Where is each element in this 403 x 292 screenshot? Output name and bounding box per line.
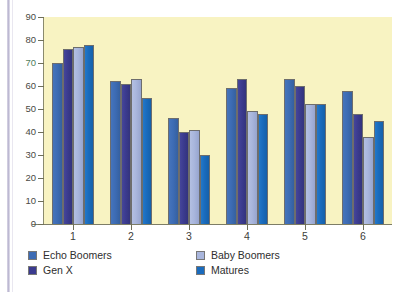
y-axis-tick-label: 10	[0, 196, 36, 206]
y-axis-tick-label: 90	[0, 12, 36, 22]
x-axis-line	[32, 224, 392, 225]
legend-item: Echo Boomers	[28, 250, 112, 261]
bar	[226, 88, 237, 224]
bar	[52, 63, 63, 224]
bar	[110, 81, 121, 224]
y-axis-tick-label: 50	[0, 104, 36, 114]
bar	[342, 91, 353, 224]
legend-swatch-icon	[28, 266, 37, 275]
bar	[84, 45, 95, 224]
bar	[295, 86, 306, 224]
bar	[258, 114, 269, 224]
legend-item: Baby Boomers	[196, 250, 280, 261]
legend-item: Gen X	[28, 265, 73, 276]
x-axis-tick-label: 2	[116, 231, 146, 242]
legend-item: Matures	[196, 265, 249, 276]
x-axis-tick-label: 5	[290, 231, 320, 242]
legend-swatch-icon	[196, 251, 205, 260]
legend-label: Echo Boomers	[43, 250, 112, 261]
bars-layer	[44, 17, 392, 224]
y-axis-tick-label: 80	[0, 35, 36, 45]
bar	[237, 79, 248, 224]
x-axis-tick-label: 6	[348, 231, 378, 242]
bar	[121, 84, 132, 224]
bar	[179, 132, 190, 224]
bar	[316, 104, 327, 224]
bar	[189, 130, 200, 224]
chart-figure: 0102030405060708090 123456 Echo BoomersG…	[0, 0, 403, 292]
x-axis-tick-label: 4	[232, 231, 262, 242]
y-axis-tick	[38, 224, 44, 225]
y-axis-tick-label: 40	[0, 127, 36, 137]
bar	[305, 104, 316, 224]
y-axis-tick-label: 70	[0, 58, 36, 68]
bar	[168, 118, 179, 224]
bar	[353, 114, 364, 224]
y-axis-tick-label: 0	[0, 219, 36, 229]
bar	[247, 111, 258, 224]
bar	[131, 79, 142, 224]
chart-legend: Echo BoomersGen XBaby BoomersMatures	[28, 250, 358, 284]
legend-label: Matures	[211, 265, 249, 276]
y-axis-tick-label: 60	[0, 81, 36, 91]
x-axis-tick-label: 3	[174, 231, 204, 242]
y-axis-tick-label: 20	[0, 173, 36, 183]
legend-swatch-icon	[28, 251, 37, 260]
bar	[284, 79, 295, 224]
legend-label: Baby Boomers	[211, 250, 280, 261]
bar	[200, 155, 211, 224]
bar	[63, 49, 74, 224]
bar	[142, 98, 153, 225]
x-axis-tick-label: 1	[58, 231, 88, 242]
bar	[73, 47, 84, 224]
y-axis-tick-label: 30	[0, 150, 36, 160]
bar	[374, 121, 385, 225]
legend-swatch-icon	[196, 266, 205, 275]
legend-label: Gen X	[43, 265, 73, 276]
bar	[363, 137, 374, 224]
